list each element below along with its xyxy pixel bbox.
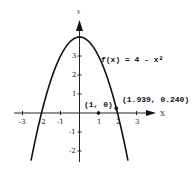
point-1-0-label: (1, 0) — [84, 100, 113, 109]
point-1939-label: (1.939, 0.240) — [122, 95, 189, 104]
x-tick-label: -3 — [19, 118, 26, 126]
point-1939-0240 — [115, 107, 119, 111]
y-tick-labels: 3 2 1 -1 -2 — [69, 52, 76, 155]
x-tick-label: 3 — [135, 118, 139, 126]
chart: X Y -3 -2 -1 1 2 3 3 2 1 -1 -2 f(x — [0, 0, 194, 174]
y-tick-label: 3 — [72, 52, 76, 60]
y-tick-label: 1 — [72, 90, 76, 98]
point-1-0 — [97, 111, 101, 115]
y-tick-label: 2 — [72, 71, 76, 79]
y-axis-label: Y — [76, 9, 81, 15]
y-tick-label: -2 — [69, 147, 76, 155]
y-tick-label: -1 — [69, 128, 76, 136]
x-axis-label: X — [160, 110, 165, 118]
x-tick-label: -1 — [57, 118, 64, 126]
function-label: f(x) = 4 - x² — [101, 55, 163, 64]
x-axis-arrow-icon — [146, 110, 156, 116]
y-axis-arrow-icon — [76, 20, 83, 31]
x-tick-label: 1 — [97, 118, 101, 126]
